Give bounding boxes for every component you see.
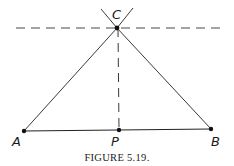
geometry-figure: C A P B FIGURE 5.19. [0,0,234,166]
label-P: P [111,134,119,149]
dashed-altitude-CP [118,28,119,130]
label-C: C [112,7,122,22]
figure-caption: FIGURE 5.19. [84,152,149,163]
point-A [22,129,26,133]
label-B: B [211,134,220,149]
point-B [209,127,213,131]
segment-BC [117,28,211,129]
point-P [117,128,121,132]
segment-AC [24,28,117,131]
point-C [115,26,120,31]
label-A: A [11,134,21,149]
